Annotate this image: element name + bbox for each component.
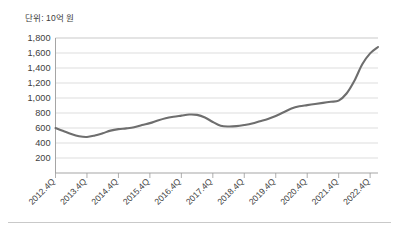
x-axis-tick-label: 2022.4Q [341,176,372,207]
x-axis-tick-label: 2013.4Q [58,176,89,207]
x-axis-tick-label: 2014.4Q [89,176,120,207]
x-axis-tick-label: 2017.4Q [184,176,215,207]
axes-group [56,38,379,178]
bottom-divider [8,222,391,223]
x-axis-tick-label: 2018.4Q [215,176,246,207]
y-axis-tick-label: 1,400 [28,63,51,73]
y-axis-tick-label: 800 [35,108,50,118]
chart-plot-area: 2004006008001,0001,2001,4001,6001,800 20… [0,0,399,232]
y-axis-tick-label: 1,000 [28,93,51,103]
x-axis-tick-label: 2020.4Q [278,176,309,207]
x-axis-tick-label: 2012.4Q [27,176,58,207]
y-axis-tick-label: 1,800 [28,33,51,43]
x-axis-tick-label: 2016.4Q [152,176,183,207]
y-axis-tick-labels: 2004006008001,0001,2001,4001,6001,800 [28,33,51,163]
y-axis-tick-label: 400 [35,138,50,148]
x-axis-tick-labels: 2012.4Q2013.4Q2014.4Q2015.4Q2016.4Q2017.… [27,176,372,207]
x-axis-tick-label: 2021.4Q [310,176,341,207]
y-axis-tick-label: 600 [35,123,50,133]
series-line-household-loans [56,47,379,137]
y-axis-tick-label: 1,600 [28,48,51,58]
y-axis-tick-label: 200 [35,153,50,163]
x-axis-tick-label: 2015.4Q [121,176,152,207]
gridlines-group [56,38,379,158]
line-chart-figure: 단위: 10억 원 2004006008001,0001,2001,4001,6… [0,0,399,232]
x-axis-tick-label: 2019.4Q [247,176,278,207]
y-axis-tick-label: 1,200 [28,78,51,88]
